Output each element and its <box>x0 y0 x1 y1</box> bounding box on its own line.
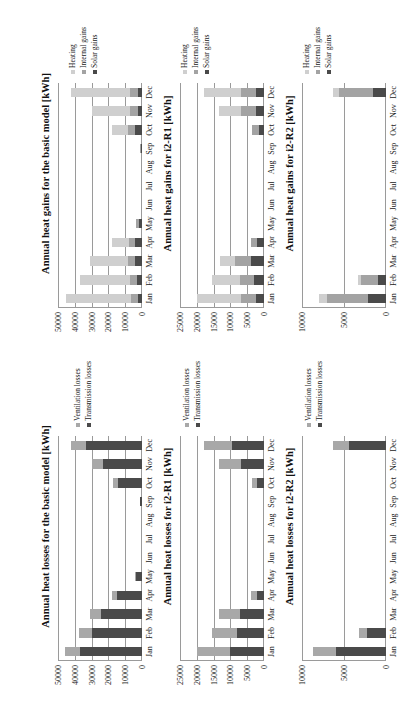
legend-label: Transmission losses <box>315 361 324 421</box>
x-tick-label: Sep <box>145 143 154 155</box>
bar-segment-transmission-losses <box>257 478 264 487</box>
bar-segment-internal-gains <box>235 256 250 265</box>
y-tick-label: 10000 <box>298 312 307 332</box>
plot-area: 01000020000300004000050000JanFebMarAprMa… <box>58 436 142 661</box>
bar-apr <box>251 238 264 247</box>
x-tick-label: Dec <box>389 86 398 99</box>
bar-segment-solar-gains <box>137 275 142 284</box>
x-tick-label: Jul <box>145 534 154 543</box>
bar-segment-ventilation-losses <box>219 459 241 468</box>
gridline <box>58 436 59 661</box>
legend-swatch <box>205 70 209 74</box>
y-tick-label: 20000 <box>104 665 113 685</box>
x-tick-label: Aug <box>389 160 398 174</box>
bar-jan <box>313 647 386 656</box>
x-tick-label: Nov <box>389 104 398 118</box>
legend-item: Transmission losses <box>84 361 93 427</box>
bar-segment-solar-gains <box>373 88 386 97</box>
bar-segment-heating <box>112 238 129 247</box>
bar-segment-transmission-losses <box>80 647 142 656</box>
bar-jan <box>65 647 142 656</box>
legend-swatch <box>87 423 91 427</box>
x-tick-label: Jul <box>389 181 398 190</box>
bar-jan <box>197 294 264 303</box>
bar-segment-solar-gains <box>138 88 142 97</box>
legend-label: Solar gains <box>324 34 333 68</box>
x-tick-label: Mar <box>145 607 154 620</box>
legend: Ventilation lossesTransmission losses <box>182 361 204 427</box>
chart-title: Annual heat gains for i2-R2 [kWh] <box>284 1 295 346</box>
bar-segment-heating <box>319 294 327 303</box>
x-tick-label: Apr <box>267 236 276 248</box>
bar-may <box>135 572 142 581</box>
legend-item: Heating <box>180 27 189 74</box>
x-tick-label: Feb <box>267 274 276 286</box>
legend-swatch <box>196 423 200 427</box>
y-tick-label: 25000 <box>176 312 185 332</box>
legend-item: Internal gains <box>79 27 88 74</box>
legend-swatch <box>194 70 198 74</box>
legend-swatch <box>327 70 331 74</box>
y-tick-label: 25000 <box>176 665 185 685</box>
x-tick-label: Sep <box>389 143 398 155</box>
bar-segment-internal-gains <box>252 125 259 134</box>
bar-segment-transmission-losses <box>336 647 386 656</box>
legend-swatch <box>318 423 322 427</box>
bar-segment-internal-gains <box>131 294 138 303</box>
bar-segment-heating <box>197 294 241 303</box>
legend-label: Ventilation losses <box>73 368 82 421</box>
legend: Ventilation lossesTransmission losses <box>73 361 95 427</box>
y-tick-label: 10000 <box>226 665 235 685</box>
bar-segment-solar-gains <box>141 144 142 153</box>
y-tick-label: 0 <box>382 665 391 669</box>
bar-segment-heating <box>204 88 241 97</box>
x-tick-label: Oct <box>389 477 398 489</box>
bar-segment-solar-gains <box>378 275 386 284</box>
y-axis <box>180 660 264 661</box>
x-tick-label: Oct <box>267 477 276 489</box>
bar-mar <box>90 609 142 618</box>
gridline <box>302 436 303 661</box>
bar-dec <box>71 88 142 97</box>
gridline <box>344 83 345 308</box>
x-tick-label: Feb <box>389 274 398 286</box>
gridline <box>180 436 181 661</box>
gridline <box>197 83 198 308</box>
gridline <box>180 83 181 308</box>
bar-sep <box>140 144 142 153</box>
x-tick-label: Sep <box>145 496 154 508</box>
y-tick-label: 20000 <box>192 312 201 332</box>
bar-segment-internal-gains <box>241 88 256 97</box>
gridline <box>75 436 76 661</box>
bar-may <box>136 219 142 228</box>
x-tick-label: Dec <box>267 86 276 99</box>
bar-segment-transmission-losses <box>240 609 264 618</box>
legend-label: Solar gains <box>202 34 211 68</box>
y-tick-label: 20000 <box>104 312 113 332</box>
bar-jan <box>66 294 142 303</box>
x-tick-label: Feb <box>145 274 154 286</box>
x-tick-label: Apr <box>145 589 154 601</box>
bar-sep <box>140 497 142 506</box>
chart-title: Annual heat losses for the basic model [… <box>40 354 51 699</box>
bar-feb <box>359 628 386 637</box>
x-tick-label: Apr <box>389 236 398 248</box>
bar-segment-transmission-losses <box>349 441 386 450</box>
chart-losses-i2r1: Annual heat losses for i2-R1 [kWh] 05000… <box>160 354 280 699</box>
x-tick-label: Jun <box>267 199 276 210</box>
legend-swatch <box>185 423 189 427</box>
chart-losses-i2r2: Annual heat losses for i2-R2 [kWh] 05000… <box>282 354 402 699</box>
y-tick-label: 30000 <box>87 312 96 332</box>
bar-segment-solar-gains <box>256 294 264 303</box>
bar-segment-solar-gains <box>257 238 264 247</box>
x-tick-label: Aug <box>267 160 276 174</box>
x-tick-label: Feb <box>389 627 398 639</box>
rotated-page: Annual heat losses for the basic model [… <box>0 0 420 711</box>
legend-swatch <box>183 70 187 74</box>
bar-segment-heating <box>92 106 130 115</box>
bar-segment-transmission-losses <box>117 591 142 600</box>
bar-oct <box>113 478 142 487</box>
legend-item: Internal gains <box>313 27 322 74</box>
y-tick-label: 0 <box>382 312 391 316</box>
x-tick-label: Nov <box>145 104 154 118</box>
